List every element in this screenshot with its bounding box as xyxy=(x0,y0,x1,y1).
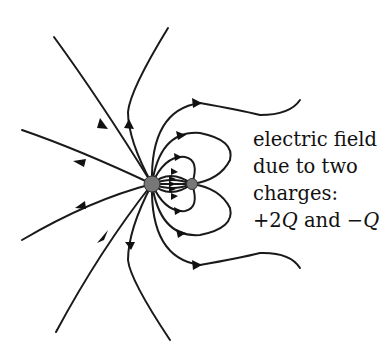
caption-line-4: +2Q and −Q xyxy=(253,207,379,234)
caption: electric field due to two charges: +2Q a… xyxy=(253,126,379,234)
arrow-icon xyxy=(192,260,202,270)
arrow-icon xyxy=(73,159,86,167)
arrow-icon xyxy=(75,201,86,209)
arrow-icon xyxy=(176,131,186,140)
arrow-icon xyxy=(125,242,135,250)
arrow-icon xyxy=(97,230,108,243)
caption-prefix: +2 xyxy=(253,209,282,232)
arrow-icon xyxy=(124,119,134,129)
negative-charge xyxy=(187,179,198,190)
caption-line-1: electric field xyxy=(253,126,379,153)
arrow-icon xyxy=(174,153,182,161)
arrow-icon xyxy=(171,193,178,200)
caption-mid: and − xyxy=(298,209,363,232)
arrow-icon xyxy=(97,118,108,129)
arrow-icon xyxy=(176,229,186,238)
arrow-icon xyxy=(171,168,178,175)
charge-symbol: Q xyxy=(363,209,379,232)
caption-line-3: charges: xyxy=(253,180,379,207)
arrow-icon xyxy=(169,181,176,187)
arrow-icon xyxy=(174,207,182,215)
diagram: electric field due to two charges: +2Q a… xyxy=(0,0,390,353)
arrow-icon xyxy=(192,98,202,108)
positive-charge xyxy=(144,176,160,192)
charge-symbol: Q xyxy=(282,209,298,232)
caption-line-2: due to two xyxy=(253,153,379,180)
